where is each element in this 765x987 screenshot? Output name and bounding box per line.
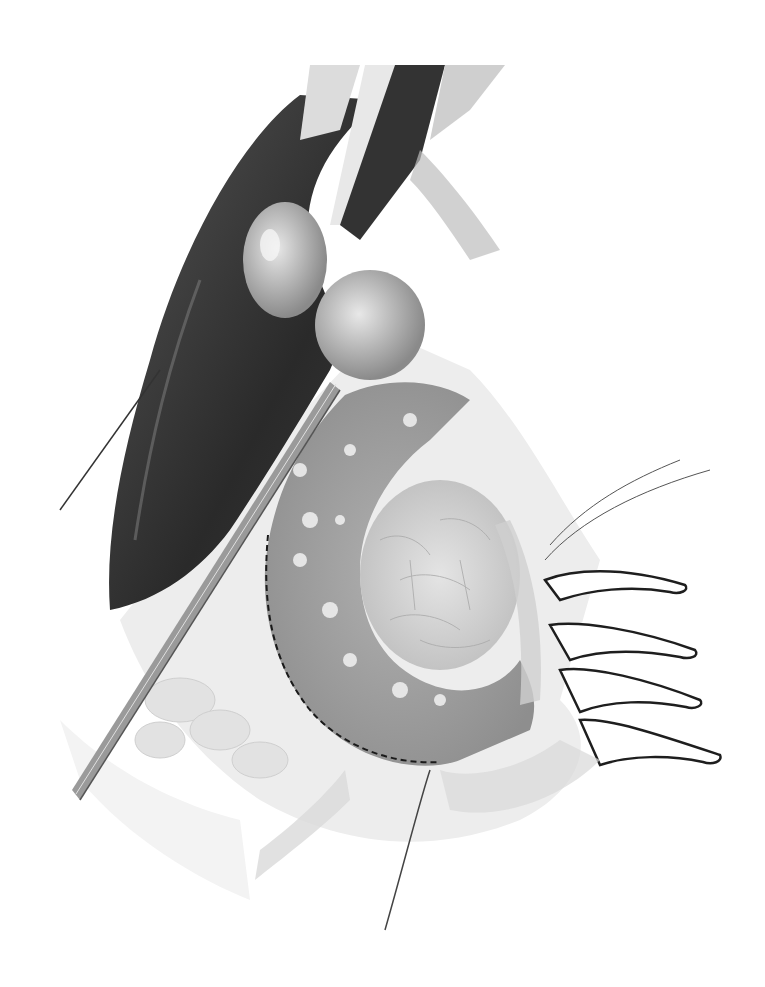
gallbladder-lower [315,270,425,380]
gallbladder-highlight [260,229,280,261]
surgical-illustration [0,0,765,987]
hepatic-ligament [300,65,505,260]
gallbladder-upper [243,202,327,318]
pancreas-head [360,480,520,670]
